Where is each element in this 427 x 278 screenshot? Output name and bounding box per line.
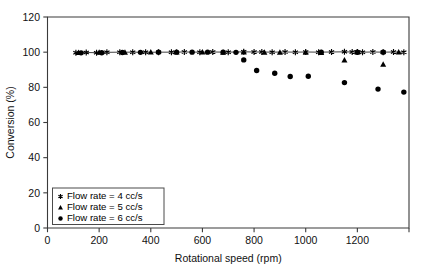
data-point-circle (401, 89, 406, 94)
data-point-circle (233, 50, 238, 55)
legend-label-3: Flow rate = 6 cc/s (67, 212, 143, 223)
data-point-circle (205, 49, 210, 54)
series-3 (78, 49, 406, 94)
data-point-circle (254, 68, 259, 73)
data-point-circle (241, 57, 246, 62)
data-point-circle (189, 49, 194, 54)
data-point-circle (138, 50, 143, 55)
x-axis-title: Rotational speed (rpm) (175, 252, 282, 264)
y-tick-label: 60 (28, 116, 40, 128)
data-point-circle (272, 71, 277, 76)
y-tick-label: 100 (22, 46, 40, 58)
x-tick-label: 0 (45, 234, 51, 246)
data-point-circle (156, 49, 161, 54)
x-tick-label: 400 (142, 234, 160, 246)
data-point-circle (319, 49, 324, 54)
data-point-circle (306, 74, 311, 79)
plot-legend: Flow rate = 4 cc/sFlow rate = 5 cc/sFlow… (53, 188, 165, 225)
x-tick-label: 800 (245, 234, 263, 246)
x-tick-label: 200 (90, 234, 108, 246)
data-point-circle (120, 50, 125, 55)
data-point-triangle (148, 49, 154, 55)
data-point-circle (78, 50, 83, 55)
data-point-circle (380, 49, 385, 54)
x-tick-label: 1000 (294, 234, 318, 246)
legend-label-1: Flow rate = 4 cc/s (67, 190, 143, 201)
x-tick-label: 1200 (346, 234, 370, 246)
data-point-circle (342, 80, 347, 85)
y-tick-label: 80 (28, 81, 40, 93)
chart-container: 020406080100120020040060080010001200 Flo… (0, 0, 427, 278)
data-point-circle (58, 216, 62, 220)
plot-series (73, 49, 406, 95)
data-point-circle (375, 86, 380, 91)
data-point-circle (355, 49, 360, 54)
data-point-triangle (341, 57, 347, 63)
x-tick-label: 600 (194, 234, 212, 246)
scatter-plot: 020406080100120020040060080010001200 Flo… (0, 0, 427, 278)
legend-label-2: Flow rate = 5 cc/s (67, 201, 143, 212)
y-tick-label: 40 (28, 151, 40, 163)
y-tick-label: 120 (22, 11, 40, 23)
y-tick-label: 0 (34, 222, 40, 234)
data-point-circle (99, 50, 104, 55)
y-tick-label: 20 (28, 187, 40, 199)
data-point-triangle (380, 61, 386, 67)
data-point-circle (174, 49, 179, 54)
y-axis-title: Conversion (%) (4, 86, 16, 158)
data-point-circle (288, 74, 293, 79)
data-point-circle (220, 49, 225, 54)
